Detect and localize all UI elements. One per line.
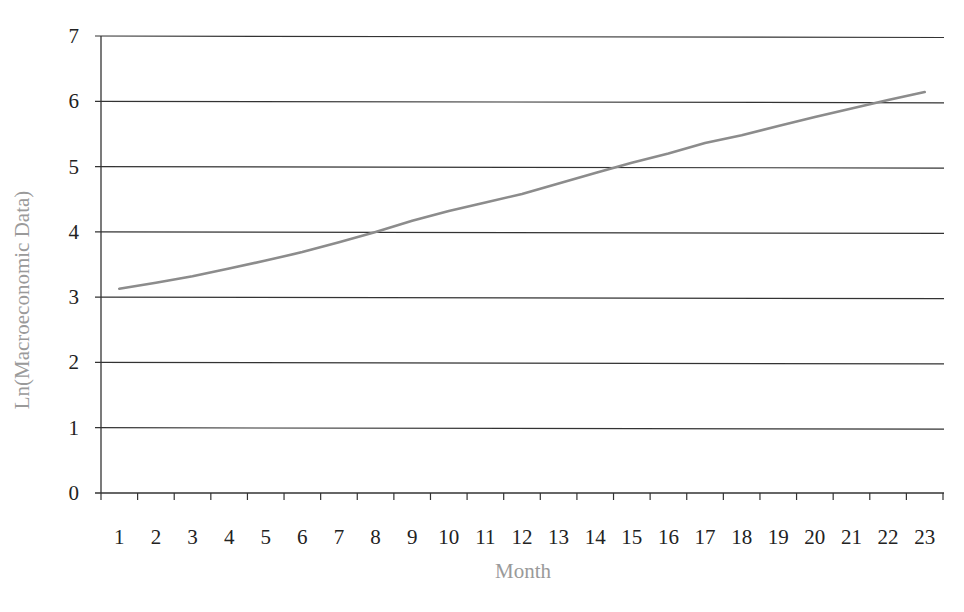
x-axis-ticks [101, 493, 943, 500]
x-tick-label: 23 [914, 525, 935, 549]
gridline [95, 36, 944, 38]
gridlines [95, 36, 944, 429]
gridline [95, 101, 944, 103]
x-tick-label: 14 [585, 525, 607, 549]
x-tick-label: 16 [658, 525, 679, 549]
x-tick-label: 19 [768, 525, 789, 549]
gridline [95, 297, 944, 299]
x-tick-label: 8 [370, 525, 381, 549]
x-tick-label: 11 [475, 525, 495, 549]
x-tick-label: 21 [841, 525, 862, 549]
series-line [119, 92, 924, 289]
x-tick-label: 18 [731, 525, 752, 549]
x-tick-label: 4 [224, 525, 235, 549]
x-tick-label: 20 [804, 525, 825, 549]
x-tick-label: 12 [512, 525, 533, 549]
x-tick-label: 10 [438, 525, 459, 549]
x-axis-title: Month [495, 559, 552, 583]
x-tick-label: 2 [151, 525, 162, 549]
y-tick-label: 7 [69, 24, 80, 48]
x-tick-label: 22 [878, 525, 899, 549]
y-axis-tick-labels: 01234567 [69, 24, 80, 505]
x-tick-label: 3 [187, 525, 198, 549]
y-tick-label: 2 [69, 350, 80, 374]
x-tick-label: 6 [297, 525, 308, 549]
gridline [95, 167, 944, 169]
x-tick-label: 15 [621, 525, 642, 549]
y-tick-label: 3 [69, 285, 80, 309]
x-tick-label: 9 [407, 525, 418, 549]
gridline [95, 232, 944, 234]
x-tick-label: 13 [548, 525, 569, 549]
line-chart: 01234567 1234567891011121314151617181920… [0, 0, 964, 612]
y-tick-label: 6 [69, 89, 80, 113]
y-tick-label: 1 [69, 416, 80, 440]
gridline [95, 428, 944, 430]
y-tick-label: 4 [69, 220, 80, 244]
x-tick-label: 17 [695, 525, 716, 549]
gridline [95, 362, 944, 364]
x-tick-label: 5 [260, 525, 271, 549]
y-axis-title: Ln(Macroeconomic Data) [10, 191, 34, 410]
x-tick-label: 7 [334, 525, 345, 549]
y-tick-label: 0 [69, 481, 80, 505]
x-axis-tick-labels: 1234567891011121314151617181920212223 [114, 525, 935, 549]
y-tick-label: 5 [69, 155, 80, 179]
x-tick-label: 1 [114, 525, 125, 549]
